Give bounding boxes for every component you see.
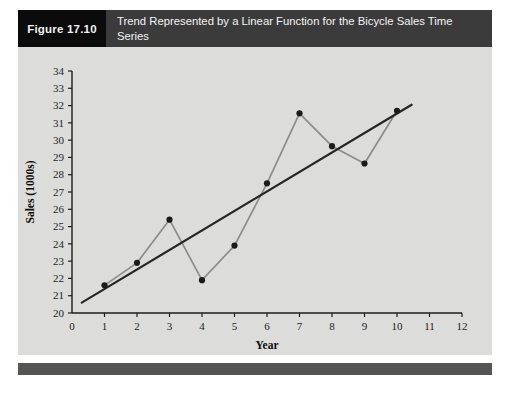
figure-title-label: Trend Represented by a Linear Function f… xyxy=(117,14,482,42)
series-line-bicycle-sales xyxy=(105,111,398,286)
y-tick-label: 31 xyxy=(53,117,64,129)
data-point-marker xyxy=(101,282,107,288)
x-tick-label: 8 xyxy=(329,320,335,332)
y-axis-tick-labels: 202122232425262728293031323334 xyxy=(53,65,65,319)
y-tick-label: 22 xyxy=(53,272,64,284)
x-tick-label: 1 xyxy=(102,320,108,332)
y-tick-label: 21 xyxy=(53,289,64,301)
x-tick-label: 6 xyxy=(264,320,270,332)
x-tick-label: 2 xyxy=(134,320,140,332)
data-point-marker xyxy=(329,143,335,149)
x-axis-tick-labels: 0123456789101112 xyxy=(69,320,467,332)
y-tick-label: 30 xyxy=(53,134,65,146)
y-tick-label: 29 xyxy=(53,151,65,163)
x-axis-title: Year xyxy=(256,339,279,351)
line-chart: 202122232425262728293031323334 012345678… xyxy=(18,47,492,355)
x-tick-label: 5 xyxy=(232,320,238,332)
y-tick-label: 28 xyxy=(53,168,65,180)
y-tick-label: 24 xyxy=(53,238,65,250)
y-tick-label: 32 xyxy=(53,99,64,111)
x-tick-label: 0 xyxy=(69,320,75,332)
y-tick-label: 26 xyxy=(53,203,65,215)
y-tick-label: 33 xyxy=(53,82,65,94)
data-point-marker xyxy=(394,108,400,114)
figure-bottom-rule xyxy=(18,363,492,375)
data-point-marker xyxy=(231,242,237,248)
figure-number-label: Figure 17.10 xyxy=(27,23,97,35)
y-tick-label: 23 xyxy=(53,255,65,267)
figure-title-block: Trend Represented by a Linear Function f… xyxy=(106,10,492,47)
figure-container: Figure 17.10 Trend Represented by a Line… xyxy=(0,0,525,397)
y-tick-label: 34 xyxy=(53,65,65,77)
y-tick-label: 27 xyxy=(53,186,65,198)
chart-svg: 202122232425262728293031323334 012345678… xyxy=(18,47,492,355)
x-tick-label: 12 xyxy=(457,320,468,332)
trend-line xyxy=(82,105,412,303)
figure-number-block: Figure 17.10 xyxy=(18,10,106,47)
data-point-marker xyxy=(199,277,205,283)
figure-panel: 202122232425262728293031323334 012345678… xyxy=(18,47,492,355)
x-tick-label: 7 xyxy=(297,320,303,332)
y-axis-title: Sales (1000s) xyxy=(24,160,37,223)
y-tick-label: 20 xyxy=(53,307,65,319)
x-tick-label: 4 xyxy=(199,320,205,332)
data-point-marker xyxy=(361,160,367,166)
series-markers xyxy=(101,108,400,289)
data-point-marker xyxy=(264,180,270,186)
figure-header: Figure 17.10 Trend Represented by a Line… xyxy=(18,10,492,47)
x-tick-label: 10 xyxy=(392,320,404,332)
data-point-marker xyxy=(296,110,302,116)
data-point-marker xyxy=(134,260,140,266)
data-point-marker xyxy=(166,217,172,223)
y-tick-label: 25 xyxy=(53,220,65,232)
x-tick-label: 9 xyxy=(362,320,368,332)
x-tick-label: 3 xyxy=(167,320,173,332)
x-tick-label: 11 xyxy=(424,320,435,332)
